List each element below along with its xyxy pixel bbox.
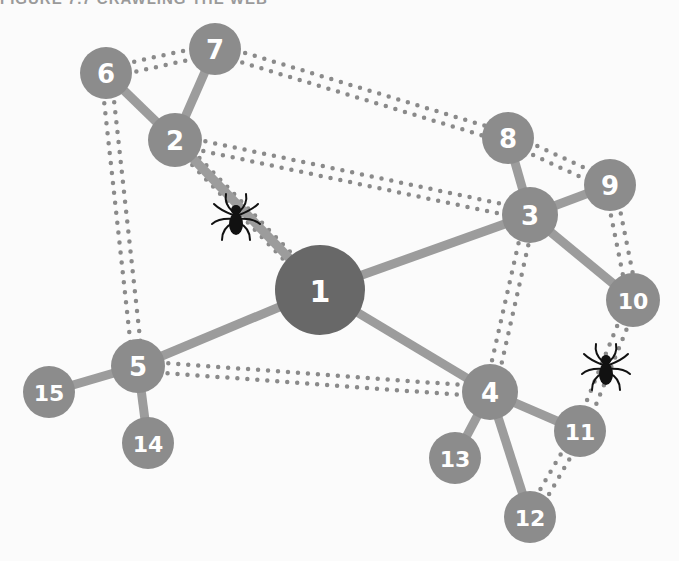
node-label: 11: [565, 420, 596, 445]
node-label: 8: [499, 124, 517, 154]
node-label: 10: [618, 289, 649, 314]
node-9: 9: [584, 159, 636, 211]
node-6: 6: [80, 47, 132, 99]
spider-icon: [582, 344, 630, 390]
node-8: 8: [482, 112, 534, 164]
node-10: 10: [606, 273, 660, 327]
node-12: 12: [504, 491, 556, 543]
node-2: 2: [148, 113, 202, 167]
node-label: 6: [97, 59, 115, 89]
dotted-link-6-5: [101, 72, 143, 366]
dotted-link-5-4: [138, 361, 491, 397]
node-label: 14: [133, 432, 164, 457]
node-label: 9: [601, 171, 619, 201]
node-11: 11: [554, 405, 606, 457]
node-1: 1: [275, 245, 365, 335]
node-label: 1: [310, 274, 331, 309]
node-15: 15: [23, 366, 75, 418]
node-7: 7: [189, 23, 241, 75]
node-label: 3: [521, 201, 539, 231]
node-label: 5: [129, 352, 147, 382]
node-4: 4: [462, 364, 518, 420]
node-3: 3: [502, 187, 558, 243]
web-crawler-graph: 123456789101112131415: [0, 0, 679, 561]
node-label: 13: [440, 447, 471, 472]
node-label: 2: [166, 126, 184, 156]
node-label: 7: [206, 35, 224, 65]
node-5: 5: [111, 339, 165, 393]
node-label: 12: [515, 506, 546, 531]
spider-layer: [212, 194, 630, 390]
dotted-link-7-8: [214, 44, 510, 143]
node-13: 13: [429, 432, 481, 484]
node-layer: 123456789101112131415: [23, 23, 660, 543]
node-label: 4: [481, 378, 499, 408]
node-label: 15: [34, 381, 65, 406]
node-14: 14: [122, 417, 174, 469]
